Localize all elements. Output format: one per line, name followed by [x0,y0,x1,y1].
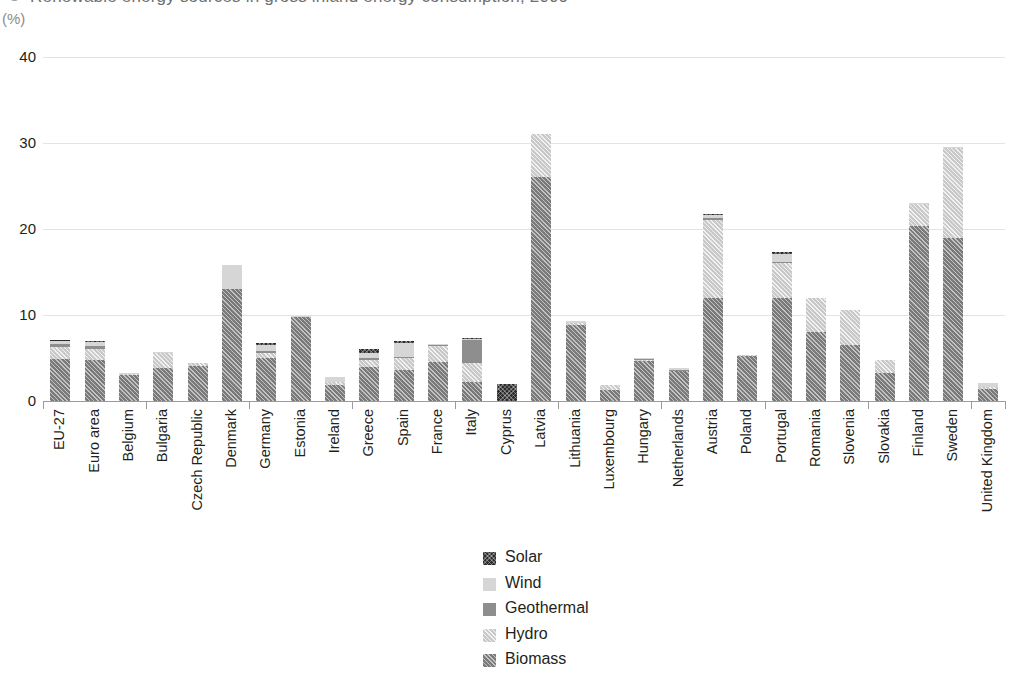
bar-segment-solar [359,349,379,353]
bar-segment-wind [978,383,998,387]
bar-segment-geothermal [359,358,379,360]
bar-group[interactable] [600,385,620,401]
gridline [43,57,1005,58]
bar-segment-wind [428,344,448,345]
x-axis-labels: EU-27Euro areaBelgiumBulgariaCzech Repub… [0,409,1020,534]
legend-label: Hydro [505,623,548,645]
x-axis-label-denmark: Denmark [224,409,239,468]
bar-segment-biomass [531,177,551,401]
bar-segment-hydro [943,148,963,238]
bar-segment-biomass [978,389,998,401]
bar-segment-geothermal [772,262,792,264]
bar-segment-solar [256,343,276,345]
bar-group[interactable] [978,383,998,401]
bar-group[interactable] [737,355,757,401]
x-axis-label-france: France [430,409,445,454]
bar-segment-biomass [943,238,963,401]
bar-segment-biomass [772,298,792,401]
x-axis-tick [455,401,456,409]
bar-segment-biomass [669,371,689,401]
bar-group[interactable] [772,252,792,401]
bar-segment-hydro [737,355,757,357]
bar-group[interactable] [703,214,723,401]
bar-segment-geothermal [634,359,654,360]
bar-group[interactable] [119,373,139,401]
bar-segment-hydro [188,363,208,366]
x-axis-label-luxembourg: Luxembourg [602,409,617,490]
bar-segment-geothermal [256,351,276,353]
bar-segment-biomass [359,367,379,401]
hydro-swatch-icon [483,629,496,642]
bar-segment-biomass [462,382,482,401]
bar-segment-wind [394,343,414,358]
y-axis-tick-label: 20 [4,220,36,237]
bar-segment-hydro [634,360,654,361]
bar-group[interactable] [497,384,517,401]
bar-segment-hydro [462,363,482,382]
bar-segment-hydro [806,298,826,332]
bar-group[interactable] [359,349,379,401]
bar-group[interactable] [634,358,654,401]
bar-group[interactable] [531,134,551,401]
plot-area [43,57,1005,401]
bar-group[interactable] [806,298,826,401]
x-axis-tick [43,401,44,409]
bar-group[interactable] [325,377,345,401]
bar-segment-biomass [394,370,414,401]
bar-segment-geothermal [394,357,414,358]
bar-segment-biomass [188,366,208,401]
x-axis-label-ireland: Ireland [327,409,342,453]
gridline [43,229,1005,230]
y-axis-tick-label: 30 [4,134,36,151]
bar-segment-biomass [806,332,826,401]
bar-group[interactable] [394,341,414,401]
bar-segment-hydro [359,360,379,368]
wind-swatch-icon [483,578,496,591]
x-axis-label-estonia: Estonia [293,409,308,457]
x-axis-label-romania: Romania [808,409,823,467]
bar-group[interactable] [943,147,963,401]
x-axis-label-belgium: Belgium [121,409,136,461]
x-axis-label-cyprus: Cyprus [499,409,514,455]
bar-group[interactable] [875,360,895,401]
bar-segment-hydro [566,323,586,326]
bar-group[interactable] [153,352,173,401]
bar-segment-biomass [85,360,105,401]
bar-segment-biomass [119,375,139,401]
bar-segment-solar [772,252,792,254]
bar-group[interactable] [256,343,276,401]
bar-group[interactable] [909,203,929,401]
bar-segment-wind [153,352,173,353]
bar-segment-wind [566,321,586,323]
bar-group[interactable] [462,338,482,401]
bar-group[interactable] [50,340,70,401]
bar-segment-geothermal [462,340,482,363]
bar-segment-wind [462,339,482,340]
bar-group[interactable] [428,344,448,401]
bar-group[interactable] [188,363,208,401]
bar-segment-biomass [909,226,929,401]
bar-segment-hydro [875,360,895,374]
bar-group[interactable] [291,316,311,401]
x-axis-label-finland: Finland [911,409,926,457]
x-axis-tick [558,401,559,409]
bar-segment-geothermal [669,370,689,371]
bar-group[interactable] [669,368,689,401]
bar-group[interactable] [222,265,242,401]
bar-segment-hydro [85,349,105,360]
y-axis-unit-label: (%) [2,10,25,27]
bar-segment-hydro [394,358,414,370]
bar-group[interactable] [85,341,105,401]
bar-segment-biomass [291,317,311,401]
bar-segment-wind [772,254,792,262]
bar-segment-geothermal [50,344,70,347]
bar-segment-wind [119,373,139,374]
bar-segment-wind [325,377,345,382]
bar-group[interactable] [840,310,860,401]
bar-segment-hydro [840,310,860,345]
bar-segment-hydro [325,382,345,385]
x-axis-label-italy: Italy [464,409,479,436]
gridline [43,315,1005,316]
bar-group[interactable] [566,321,586,401]
legend-label: Solar [505,546,542,568]
